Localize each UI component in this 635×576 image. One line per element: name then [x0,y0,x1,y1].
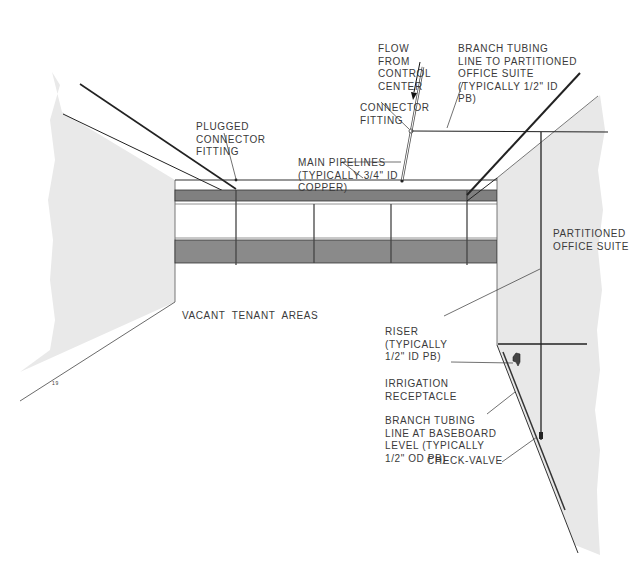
label-check-valve: CHECK-VALVE [427,455,503,468]
label-partitioned-office-suite: PARTITIONEDOFFICE SUITE [553,203,629,266]
figure-mark: 19 [52,380,59,386]
label-plugged-connector-fitting: PLUGGEDCONNECTORFITTING [196,96,266,171]
lower-band [175,240,497,263]
label-vacant-tenant-areas: VACANT TENANT AREAS [182,310,318,323]
right-partition-wall [497,95,605,555]
leader-check-valve [502,437,537,462]
label-main-pipelines: MAIN PIPELINES(TYPICALLY 3/4" IDCOPPER) [298,132,398,207]
check-valve-icon [539,432,543,439]
label-connector-fitting: CONNECTORFITTING [360,77,430,140]
main-tee [400,179,403,182]
plugged-fitting [235,179,238,182]
label-branch-tubing-to-partition: BRANCH TUBINGLINE TO PARTITIONEDOFFICE S… [458,18,577,118]
left-wall [20,72,175,372]
